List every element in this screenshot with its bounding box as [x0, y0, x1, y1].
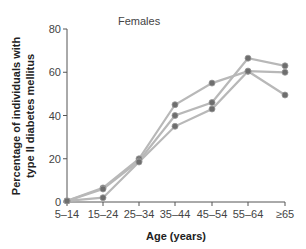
x-tick-label: ≥65	[276, 208, 294, 220]
data-point	[209, 106, 215, 112]
x-tick-label: 45–54	[197, 208, 228, 220]
chart-title: Females	[118, 15, 161, 27]
y-tick-label: 80	[49, 23, 61, 35]
data-point	[172, 113, 178, 119]
y-tick-label: 60	[49, 66, 61, 78]
data-point	[100, 186, 106, 192]
y-tick-label: 0	[55, 196, 61, 208]
data-point	[172, 102, 178, 108]
x-axis-title: Age (years)	[146, 230, 206, 242]
y-tick-label: 20	[49, 153, 61, 165]
data-point	[100, 195, 106, 201]
series-line	[67, 71, 285, 201]
x-tick-label: 5–14	[55, 208, 79, 220]
x-tick-label: 15–24	[88, 208, 119, 220]
data-point	[64, 198, 70, 204]
data-point	[209, 80, 215, 86]
data-point	[136, 159, 142, 165]
y-axis: 020406080	[49, 23, 67, 208]
y-axis-title-line1: Percentage of individuals with	[10, 37, 22, 196]
data-lines	[67, 58, 285, 201]
x-tick-label: 25–34	[124, 208, 155, 220]
x-axis: 5–1415–2425–3435–4445–5455–64≥65	[55, 202, 294, 220]
y-axis-title-line2: type II diabetes mellitus	[24, 54, 36, 178]
data-point	[282, 92, 288, 98]
data-point	[209, 100, 215, 106]
data-point	[245, 55, 251, 61]
data-point	[172, 123, 178, 129]
data-point	[245, 68, 251, 74]
series-line	[67, 71, 285, 201]
y-tick-label: 40	[49, 110, 61, 122]
x-tick-label: 55–64	[233, 208, 264, 220]
data-point	[282, 63, 288, 69]
series-line	[67, 58, 285, 201]
data-point	[282, 69, 288, 75]
data-markers	[64, 55, 288, 204]
x-tick-label: 35–44	[160, 208, 191, 220]
line-chart: Females 020406080 5–1415–2425–3435–4445–…	[0, 0, 306, 249]
